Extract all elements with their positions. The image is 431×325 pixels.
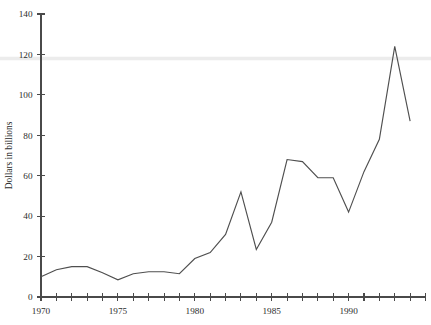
y-tick-label: 20 bbox=[23, 252, 33, 262]
x-tick-label: 1975 bbox=[109, 306, 128, 316]
line-chart: 020406080100120140 19701975198019851990 … bbox=[0, 0, 431, 325]
y-tick-label: 40 bbox=[23, 211, 33, 221]
chart-page: 020406080100120140 19701975198019851990 … bbox=[0, 0, 431, 325]
y-axis-title: Dollars in billions bbox=[4, 121, 14, 189]
y-tick-label: 0 bbox=[28, 292, 33, 302]
x-tick-label: 1990 bbox=[339, 306, 358, 316]
y-tick-label: 80 bbox=[23, 131, 33, 141]
x-tick-labels: 19701975198019851990 bbox=[32, 306, 358, 316]
data-series bbox=[41, 46, 410, 279]
x-tick-label: 1985 bbox=[263, 306, 282, 316]
y-tick-label: 100 bbox=[19, 90, 33, 100]
y-tick-labels: 020406080100120140 bbox=[19, 9, 33, 302]
y-tick-label: 60 bbox=[23, 171, 33, 181]
x-tick-label: 1980 bbox=[186, 306, 205, 316]
y-axis-title-text: Dollars in billions bbox=[4, 121, 14, 189]
x-axis bbox=[41, 293, 426, 301]
y-axis bbox=[37, 14, 45, 297]
y-tick-label: 140 bbox=[19, 9, 33, 19]
data-series-line bbox=[41, 46, 410, 279]
y-tick-label: 120 bbox=[19, 50, 33, 60]
x-tick-label: 1970 bbox=[32, 306, 51, 316]
